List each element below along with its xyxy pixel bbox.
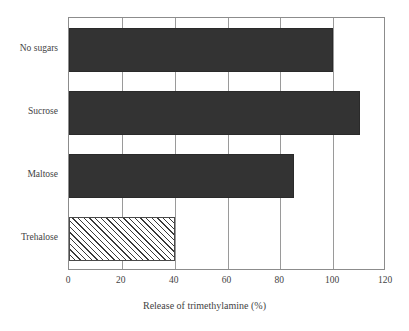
category-label-sucrose: Sucrose — [0, 106, 58, 116]
x-tick-40: 40 — [154, 275, 194, 285]
x-tick-20: 20 — [101, 275, 141, 285]
bar-no-sugars — [69, 28, 333, 72]
bar-trehalose — [69, 217, 175, 261]
bar-maltose — [69, 154, 294, 198]
x-tick-120: 120 — [365, 275, 405, 285]
x-tick-0: 0 — [48, 275, 88, 285]
category-label-no-sugars: No sugars — [0, 43, 58, 53]
bar-sucrose — [69, 91, 360, 135]
bar-chart-figure: No sugarsSucroseMaltoseTrehalose 0204060… — [0, 0, 409, 331]
x-tick-80: 80 — [259, 275, 299, 285]
x-tick-100: 100 — [312, 275, 352, 285]
category-label-maltose: Maltose — [0, 169, 58, 179]
x-tick-60: 60 — [207, 275, 247, 285]
x-axis-title: Release of trimethylamine (%) — [0, 300, 409, 311]
plot-area — [68, 17, 385, 270]
gridline-100 — [333, 18, 334, 269]
category-label-trehalose: Trehalose — [0, 232, 58, 242]
